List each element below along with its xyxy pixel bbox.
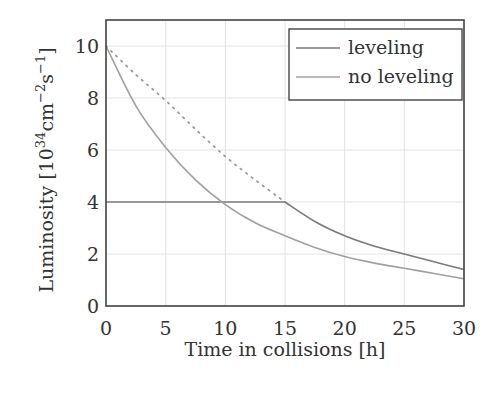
x-tick-label: 5: [160, 317, 172, 339]
legend-label-leveling: leveling: [348, 36, 424, 58]
x-tick-labels: 051015202530: [100, 317, 476, 339]
series-line-leveling-extrapolated-unlabeled: [106, 46, 285, 202]
y-label-exp3: −1: [33, 55, 48, 74]
y-tick-label: 8: [87, 87, 99, 109]
luminosity-chart: 051015202530 0246810 Time in collisions …: [0, 0, 498, 396]
y-label-s: s: [35, 74, 57, 84]
x-tick-label: 0: [100, 317, 112, 339]
x-axis-label: Time in collisions [h]: [184, 338, 385, 360]
x-tick-label: 20: [333, 317, 357, 339]
y-tick-label: 4: [87, 191, 99, 213]
y-label-main: Luminosity [10: [35, 148, 57, 292]
y-tick-label: 6: [87, 139, 99, 161]
y-label-exp1: 34: [33, 132, 48, 149]
y-tick-label: 2: [87, 243, 99, 265]
x-tick-label: 10: [213, 317, 237, 339]
x-tick-label: 30: [452, 317, 476, 339]
y-tick-label: 10: [75, 35, 99, 57]
y-label-close: ]: [35, 47, 57, 54]
legend: leveling no leveling: [289, 29, 462, 100]
y-label-cm: cm: [35, 103, 57, 132]
x-tick-label: 25: [392, 317, 416, 339]
x-tick-label: 15: [273, 317, 297, 339]
y-tick-label: 0: [87, 295, 99, 317]
legend-label-no-leveling: no leveling: [348, 65, 454, 87]
y-label-exp2: −2: [33, 84, 48, 103]
y-tick-labels: 0246810: [75, 35, 99, 317]
y-axis-label: Luminosity [1034cm−2s−1]: [33, 47, 57, 292]
